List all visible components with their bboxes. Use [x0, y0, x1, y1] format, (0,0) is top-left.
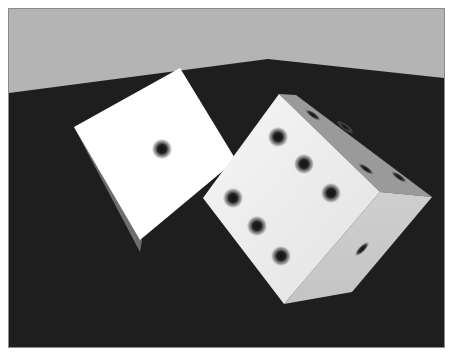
dice-scene: [0, 0, 453, 353]
left-die-pip: [151, 138, 173, 160]
